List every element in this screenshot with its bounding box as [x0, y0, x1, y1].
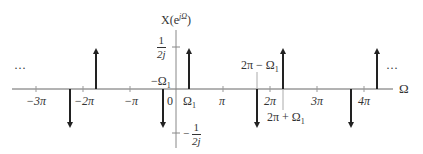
x-axis-label: Ω — [399, 82, 409, 95]
label-text: Ω — [183, 94, 192, 108]
y-tick-label-negative: 1 2j — [192, 122, 201, 147]
fraction-denominator: 2j — [157, 48, 166, 60]
x-tick-label-3pi: 3π — [311, 95, 323, 107]
label-2pi-plus-omega1: 2π + Ω1 — [267, 111, 305, 126]
label-omega1: Ω1 — [183, 95, 196, 110]
label-text: 2π − Ω — [241, 58, 275, 72]
fraction-numerator: 1 — [157, 35, 166, 48]
label-text: 2π + Ω — [267, 110, 301, 124]
y-label-close: ) — [187, 13, 191, 27]
y-axis-title: X(ejΩ) — [161, 13, 191, 26]
label-subscript: 1 — [192, 101, 196, 110]
y-label-base: X(e — [161, 13, 179, 27]
fraction-numerator: 1 — [192, 122, 201, 135]
ellipsis-right: ··· — [386, 62, 398, 74]
x-tick-label-2pi: 2π — [264, 95, 276, 107]
label-subscript: 1 — [167, 81, 171, 90]
fraction-denominator: 2j — [192, 135, 201, 147]
origin-label: 0 — [167, 95, 173, 107]
x-tick-label-neg2pi: −2π — [74, 95, 94, 107]
label-subscript: 1 — [275, 65, 279, 74]
label-2pi-minus-omega1: 2π − Ω1 — [241, 59, 279, 74]
y-label-exponent: jΩ — [179, 12, 187, 21]
spectrum-plot — [0, 0, 423, 154]
x-tick-label-neg3pi: −3π — [26, 95, 46, 107]
negative-impulses — [70, 89, 351, 125]
ellipsis-left: ··· — [14, 62, 26, 74]
y-tick-minus-sign: − — [183, 128, 189, 139]
label-subscript: 1 — [301, 117, 305, 126]
x-tick-label-negpi: −π — [124, 95, 138, 107]
x-tick-label-4pi: 4π — [358, 95, 370, 107]
label-neg-omega1: −Ω1 — [151, 75, 171, 90]
positive-impulses — [96, 51, 377, 89]
label-text: −Ω — [151, 74, 167, 88]
x-tick-label-pi: π — [219, 95, 225, 107]
y-tick-label-positive: 1 2j — [157, 35, 166, 60]
